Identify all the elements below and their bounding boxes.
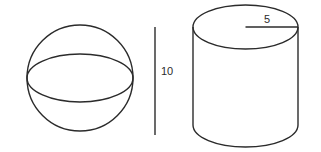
cylinder-bottom-arc: [193, 125, 298, 147]
sphere-outline: [27, 25, 133, 131]
geometry-diagram: 10 5: [0, 0, 321, 152]
radius-label: 5: [264, 13, 270, 25]
height-label: 10: [161, 65, 173, 77]
sphere-equator: [27, 54, 133, 102]
sphere: [27, 25, 133, 131]
cylinder: 5: [193, 5, 298, 147]
height-marker: 10: [155, 27, 173, 135]
